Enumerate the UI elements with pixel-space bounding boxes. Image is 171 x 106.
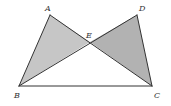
vertex-label-d: D	[138, 4, 146, 13]
vertex-label-e: E	[85, 31, 92, 40]
vertex-label-b: B	[13, 91, 20, 100]
shaded-triangle-abe	[19, 15, 90, 86]
vertex-label-c: C	[154, 91, 160, 100]
geometry-diagram: A D E B C	[0, 0, 171, 106]
vertex-label-a: A	[44, 4, 51, 13]
shaded-triangle-edc	[90, 15, 152, 86]
